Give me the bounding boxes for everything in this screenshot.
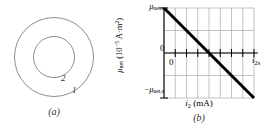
y-tick-top-subscript: net,s <box>153 5 164 11</box>
inner-coil-circle <box>33 36 75 78</box>
figure-container: 1 2 (a) μnet (10−5 A·m2) <box>0 0 277 126</box>
panel-b: μnet (10−5 A·m2) <box>106 0 277 126</box>
y-tick-label-zero: 0 <box>124 44 164 53</box>
panel-a: 1 2 (a) <box>0 0 120 126</box>
x-tick-label-zero: 0 <box>169 57 174 67</box>
x-axis-title: i2 (mA) <box>144 98 254 109</box>
inner-coil-label: 2 <box>61 74 66 83</box>
y-tick-label-top: μnet,s <box>124 2 164 11</box>
outer-coil-label: 1 <box>72 86 77 95</box>
panel-a-caption: (a) <box>0 106 108 117</box>
y-tick-label-bottom: −μnet,s <box>118 85 164 94</box>
x-axis-title-units: (mA) <box>191 98 213 108</box>
panel-b-caption: (b) <box>144 112 254 123</box>
x-tick-label-i2s: i2s <box>252 55 260 66</box>
x-tick-i-subscript: 2s <box>255 59 261 66</box>
y-tick-bottom-mu: −μ <box>144 85 153 94</box>
y-tick-bottom-subscript: net,s <box>153 88 164 94</box>
